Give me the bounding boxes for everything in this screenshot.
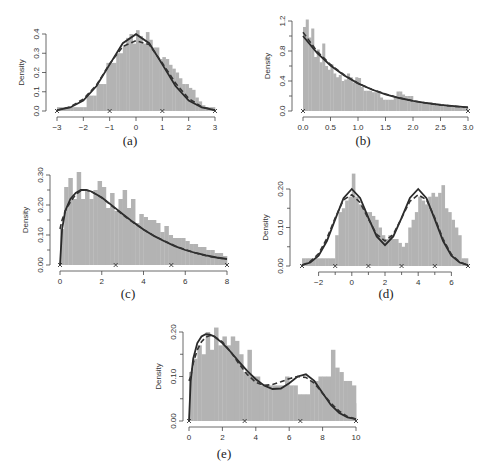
histogram-bar — [320, 62, 323, 111]
histogram-bar — [144, 217, 148, 265]
y-tick-label: 0.30 — [36, 167, 45, 183]
histogram-bar — [339, 212, 343, 266]
y-tick-label: 0.00 — [36, 257, 45, 273]
histogram-bar — [366, 91, 369, 111]
histogram-bar — [289, 385, 293, 421]
histogram-bar — [247, 350, 251, 421]
histogram-bar — [231, 336, 235, 421]
x-tick-label: 0.5 — [325, 123, 337, 132]
histogram-bar — [114, 211, 118, 265]
y-axis: 0.00.10.20.30.4 — [32, 28, 46, 117]
histogram-bar — [362, 208, 366, 266]
histogram-bar — [143, 44, 147, 111]
histogram-bar — [149, 40, 153, 111]
histogram-bar — [193, 359, 197, 421]
y-tick-label: 0.0 — [32, 105, 41, 117]
panel-caption: (b) — [355, 133, 370, 148]
x-tick-label: 1.0 — [352, 123, 364, 132]
histogram-bar — [85, 190, 89, 265]
histogram-bar — [322, 44, 325, 112]
x-tick-label: 0 — [350, 278, 355, 287]
histogram-bar — [106, 208, 110, 265]
histogram-bar — [148, 220, 152, 265]
y-tick-label: 0.00 — [169, 413, 178, 429]
x-tick-label: 2 — [186, 123, 191, 132]
x-axis: 0246810 — [187, 427, 361, 442]
density-figure: −3−2−101230.00.10.20.30.4Density(a) 0.00… — [0, 0, 485, 468]
histogram-bar — [98, 181, 102, 265]
histogram-bar — [93, 96, 97, 111]
histogram-bar — [160, 232, 164, 265]
y-axis-label: Density — [263, 53, 272, 80]
histogram-bar — [339, 75, 342, 111]
histogram-bar — [418, 197, 422, 266]
histogram-bar — [391, 100, 394, 111]
histogram-bar — [64, 187, 68, 265]
histogram-bar — [129, 34, 133, 111]
histogram-bar — [90, 96, 94, 111]
histogram-bar — [169, 235, 173, 265]
histogram-bar — [97, 84, 101, 111]
x-tick-label: 2 — [100, 277, 105, 286]
y-tick-label: 0.00 — [276, 258, 285, 274]
x-tick-label: 0.0 — [297, 123, 309, 132]
y-axis-label: Density — [21, 207, 30, 234]
histogram-bar — [189, 244, 193, 265]
histogram-bar — [281, 385, 285, 421]
histogram-bar — [252, 377, 256, 422]
x-tick-label: −3 — [52, 123, 62, 132]
histogram-bar — [172, 69, 176, 111]
histogram-bar — [73, 107, 77, 111]
panel-caption: (a) — [123, 133, 137, 148]
x-tick-label: 3.0 — [462, 123, 474, 132]
histogram-bar — [68, 178, 72, 265]
x-axis: 0.00.51.01.52.02.53.0 — [297, 117, 474, 132]
histogram-bar — [311, 29, 314, 112]
histogram-bar — [227, 345, 231, 421]
histogram-bar — [260, 385, 264, 421]
histogram-bar — [431, 193, 435, 266]
x-axis: −20246 — [314, 272, 454, 287]
histogram-bar — [377, 92, 380, 111]
histogram-bar — [73, 199, 77, 265]
histogram-bar — [386, 100, 389, 111]
histogram-bar — [315, 258, 319, 266]
y-tick-label: 0.20 — [169, 324, 178, 340]
histogram-bar — [93, 190, 97, 265]
histogram-bar — [405, 96, 408, 111]
histogram — [57, 30, 215, 111]
histogram-bar — [268, 385, 272, 421]
histogram-bar — [317, 50, 320, 112]
histogram-bar — [412, 220, 416, 266]
histogram-bar — [235, 341, 239, 421]
histogram-bar — [329, 258, 333, 266]
x-tick-label: 2 — [220, 433, 225, 442]
x-tick-label: 3 — [213, 123, 218, 132]
panel-a: −3−2−101230.00.10.20.30.4Density(a) — [17, 28, 218, 148]
histogram-bar — [77, 172, 81, 265]
histogram-bar — [331, 65, 334, 112]
histogram-bar — [448, 212, 452, 266]
histogram-bar — [126, 38, 130, 111]
histogram-bar — [298, 394, 302, 421]
y-tick-label: 0.0 — [278, 105, 287, 117]
histogram-bar — [139, 36, 143, 111]
histogram-bar — [405, 243, 409, 266]
y-tick-label: 0.1 — [32, 86, 41, 98]
histogram — [302, 174, 468, 266]
histogram-bar — [133, 44, 137, 111]
histogram-bar — [435, 197, 439, 266]
histogram-bar — [176, 73, 180, 112]
histogram-bar — [120, 53, 124, 111]
panel-caption: (d) — [378, 286, 393, 301]
histogram-bar — [198, 247, 202, 265]
histogram-bar — [306, 20, 309, 112]
histogram-bar — [214, 328, 218, 421]
histogram-bar — [388, 100, 391, 111]
histogram-bar — [202, 354, 206, 421]
histogram-bar — [358, 204, 362, 266]
histogram-bar — [342, 208, 346, 266]
histogram-bar — [156, 223, 160, 265]
panel-d: −202460.000.100.20Density(d) — [261, 174, 470, 301]
histogram-bar — [277, 385, 281, 421]
